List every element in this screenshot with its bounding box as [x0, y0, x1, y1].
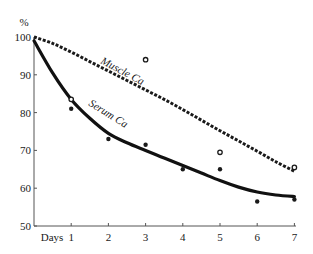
- y-tick-label: 60: [20, 182, 32, 194]
- x-tick-label: 6: [254, 231, 260, 243]
- serum-ca-point: [181, 167, 185, 171]
- serum-ca-point: [292, 197, 296, 201]
- muscle-ca-curve: [34, 37, 294, 171]
- serum-ca-point: [106, 137, 110, 141]
- serum-ca-points: [69, 107, 297, 204]
- axes: % Days 5060708090100 1234567: [15, 16, 298, 243]
- x-tick-label: 5: [217, 231, 223, 243]
- x-tick-label: 2: [106, 231, 112, 243]
- muscle-ca-point: [292, 165, 296, 169]
- serum-ca-point: [255, 199, 259, 203]
- y-tick-label: 90: [20, 69, 32, 81]
- serum-ca-point: [218, 167, 222, 171]
- x-tick-label: 7: [292, 231, 298, 243]
- calcium-decline-chart: % Days 5060708090100 1234567 Muscle Ca S…: [0, 0, 313, 254]
- y-unit-label: %: [19, 16, 28, 28]
- serum-ca-curve: [34, 41, 294, 197]
- x-tick-label: 1: [68, 231, 74, 243]
- y-tick-label: 50: [20, 220, 32, 232]
- x-tick-label: 4: [180, 231, 186, 243]
- y-tick-label: 80: [20, 107, 32, 119]
- serum-ca-label: Serum Ca: [87, 97, 131, 131]
- x-axis-title: Days: [41, 231, 64, 243]
- serum-ca-point: [143, 143, 147, 147]
- muscle-ca-point: [69, 97, 73, 101]
- serum-ca-point: [69, 107, 73, 111]
- muscle-ca-point: [143, 57, 147, 61]
- x-tick-label: 3: [143, 231, 149, 243]
- muscle-ca-point: [218, 150, 222, 154]
- y-tick-label: 70: [20, 144, 32, 156]
- y-tick-label: 100: [15, 31, 32, 43]
